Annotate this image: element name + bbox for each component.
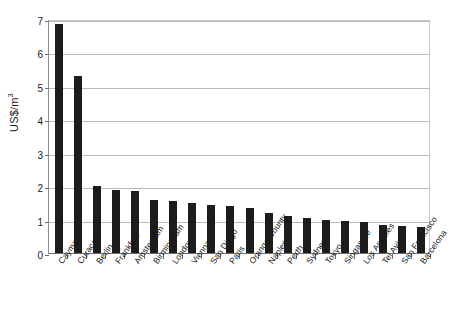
bar-chart: US$/m3 01234567 CaymanCuracaoBerlinFrank…: [0, 0, 454, 323]
bar: [246, 208, 254, 253]
bar: [55, 24, 63, 253]
bar: [74, 76, 82, 253]
y-axis-title-exponent: 3: [6, 93, 15, 97]
y-axis-title: US$/m3: [6, 52, 20, 132]
bar: [112, 190, 120, 254]
y-axis-title-text: US$/m: [8, 97, 20, 132]
plot-area: 01234567: [48, 20, 430, 254]
bars-layer: [49, 21, 429, 253]
x-axis-labels: CaymanCuracaoBerlinFrankfurtAmsterdamBir…: [48, 260, 454, 323]
